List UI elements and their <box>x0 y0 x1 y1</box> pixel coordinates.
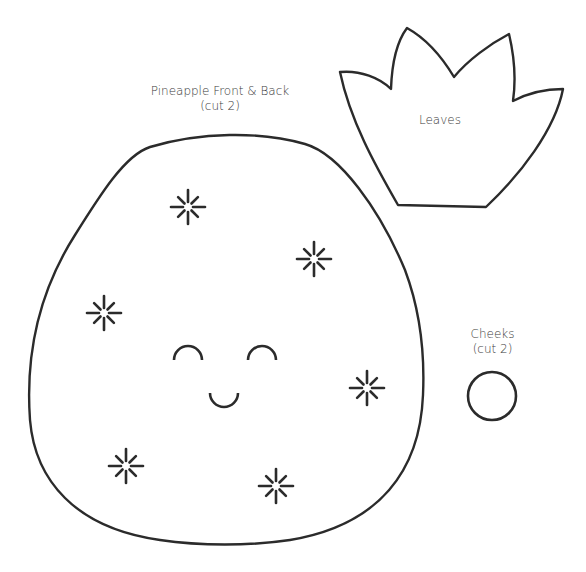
leaves-label: Leaves <box>405 113 475 128</box>
sparkle-icon <box>259 469 293 503</box>
sparkle-icon <box>171 190 205 224</box>
pineapple-cut-note: (cut 2) <box>120 99 320 114</box>
right-eye <box>248 346 276 360</box>
pineapple-title: Pineapple Front & Back <box>120 84 320 99</box>
cheeks-title: Cheeks <box>455 327 530 342</box>
cheeks-cut-note: (cut 2) <box>455 342 530 357</box>
mouth <box>210 393 238 407</box>
cheeks-label: Cheeks (cut 2) <box>455 327 530 357</box>
cheek-circle <box>468 372 516 420</box>
sparkle-icon <box>109 449 143 483</box>
left-eye <box>174 346 202 360</box>
sparkle-group <box>87 190 384 503</box>
sparkle-icon <box>297 242 331 276</box>
pineapple-label: Pineapple Front & Back (cut 2) <box>120 84 320 114</box>
pineapple-outline <box>29 135 423 545</box>
sparkle-icon <box>87 296 121 330</box>
sparkle-icon <box>350 371 384 405</box>
